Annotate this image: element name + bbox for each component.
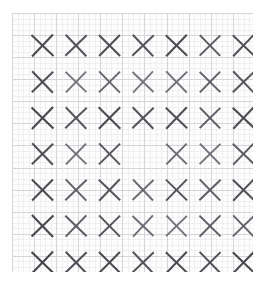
x-marker [32,143,53,164]
x-marker [166,144,187,165]
x-marker [99,107,121,129]
x-marker [66,144,87,165]
x-marker [132,215,153,236]
x-marker [31,34,53,56]
x-marker [132,35,154,57]
x-marker [166,71,187,92]
x-marker [166,216,187,237]
x-marker [99,252,120,272]
x-marker [32,215,54,237]
x-marker [65,107,87,129]
x-marker [132,107,153,128]
x-marker [99,71,120,92]
x-marker [199,179,220,200]
x-marker [32,252,54,272]
x-marker [233,252,253,272]
figure-canvas [0,0,266,284]
graph-paper [12,13,253,272]
x-marker [166,179,187,200]
x-marker [233,71,253,92]
x-marker [65,215,86,236]
x-marker [99,215,120,236]
x-marker [233,215,253,236]
x-marker [132,71,153,92]
x-marker [132,179,153,200]
x-marker [99,35,120,56]
x-marker [200,72,221,93]
x-marker [32,71,53,92]
x-marker [65,179,86,200]
x-marker [166,252,187,272]
x-marker [200,108,221,129]
x-marker [32,107,54,129]
x-marker [233,143,253,164]
x-marker [65,35,86,56]
x-marker [233,35,253,56]
x-marker [200,35,221,56]
x-marker [132,252,154,272]
x-marker [99,179,120,200]
x-marker [166,107,187,128]
x-marker [199,252,220,272]
x-marker [233,107,253,129]
x-marker [65,252,86,272]
x-marker-layer [12,13,253,272]
x-marker [200,144,221,165]
x-marker [166,35,187,56]
x-marker [66,72,87,93]
x-marker [99,143,120,164]
x-marker [32,179,53,200]
x-marker [199,215,220,236]
x-marker [233,179,253,200]
